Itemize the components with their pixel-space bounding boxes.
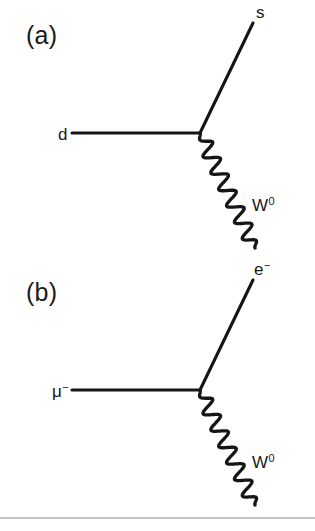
particle-label-superscript: 0 (269, 195, 275, 207)
particle-label-superscript: 0 (269, 452, 275, 464)
feynman-figure: (a) d s W0 (b) μ− e− W0 (0, 0, 315, 531)
particle-label-superscript: − (62, 381, 68, 393)
particle-label-base: W (252, 453, 268, 472)
particle-label-base: e (254, 260, 263, 279)
label-w-boson-b: W0 (252, 452, 275, 472)
outgoing-fermion-line-b (200, 280, 253, 390)
diagram-a: (a) d s W0 (26, 3, 275, 248)
label-s-quark: s (256, 3, 265, 22)
label-electron: e− (254, 259, 270, 279)
panel-label-b: (b) (26, 278, 57, 306)
w-boson-wavy-line-a (200, 133, 257, 248)
label-d-quark: d (58, 125, 67, 144)
particle-label-base: d (58, 125, 67, 144)
label-w-boson-a: W0 (252, 195, 275, 215)
particle-label-base: s (256, 3, 265, 22)
w-boson-wavy-line-b (200, 390, 257, 505)
label-muon: μ− (52, 381, 69, 401)
diagram-b: (b) μ− e− W0 (26, 259, 275, 505)
panel-label-a: (a) (26, 21, 57, 49)
particle-label-superscript: − (264, 259, 270, 271)
particle-label-base: W (252, 196, 268, 215)
particle-label-base: μ (52, 382, 62, 401)
diagram-canvas: (a) d s W0 (b) μ− e− W0 (0, 0, 315, 531)
outgoing-fermion-line-a (200, 23, 253, 133)
